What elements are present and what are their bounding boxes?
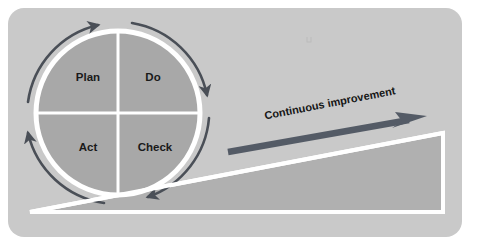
pdca-diagram: Plan Do Act Check Continuous improvement (0, 0, 479, 245)
quadrant-label-act: Act (79, 141, 98, 153)
quadrant-label-do: Do (145, 71, 160, 83)
quadrant-label-check: Check (138, 141, 173, 153)
quadrant-label-plan: Plan (76, 71, 100, 83)
figure-root: Plan Do Act Check Continuous improvement (0, 0, 479, 245)
